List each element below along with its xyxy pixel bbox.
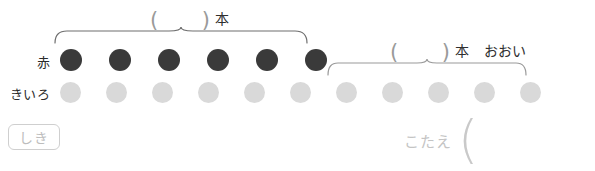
- bottom-comparison-label: おおい: [484, 43, 526, 59]
- counter-dot-red: [256, 49, 278, 71]
- counter-dot-yellow: [244, 82, 265, 103]
- kotae-open-paren: (: [458, 120, 478, 159]
- counter-dot-red: [158, 49, 180, 71]
- counter-dot-yellow: [60, 82, 81, 103]
- counter-dot-yellow: [474, 82, 495, 103]
- top-bracket-answer-label[interactable]: ( ) 本: [150, 8, 229, 32]
- shiki-equation-box[interactable]: しき: [8, 124, 60, 150]
- counter-dot-yellow: [428, 82, 449, 103]
- worksheet-canvas: 赤 きいろ ( ) 本 ( ) 本 おおい しき こたえ (: [0, 0, 595, 171]
- kotae-answer-group[interactable]: こたえ (: [404, 122, 478, 159]
- counter-dot-yellow: [106, 82, 127, 103]
- counter-dot-red: [305, 49, 327, 71]
- row-label-yellow: きいろ: [0, 84, 50, 103]
- counter-dot-yellow: [198, 82, 219, 103]
- bottom-open-paren: (: [390, 40, 398, 64]
- top-unit-label: 本: [215, 11, 229, 27]
- bottom-bracket-answer-label[interactable]: ( ) 本 おおい: [390, 40, 526, 64]
- top-open-paren: (: [150, 8, 158, 32]
- top-close-paren: ): [202, 8, 210, 32]
- counter-dot-yellow: [336, 82, 357, 103]
- counter-dot-yellow: [290, 82, 311, 103]
- row-label-red: 赤: [0, 52, 50, 71]
- counter-dot-red: [60, 49, 82, 71]
- bottom-unit-label: 本: [455, 43, 469, 59]
- bottom-close-paren: ): [442, 40, 450, 64]
- kotae-label: こたえ: [404, 130, 452, 151]
- counter-dot-red: [207, 49, 229, 71]
- counter-dot-red: [109, 49, 131, 71]
- counter-dot-yellow: [520, 82, 541, 103]
- counter-dot-yellow: [382, 82, 403, 103]
- counter-dot-yellow: [152, 82, 173, 103]
